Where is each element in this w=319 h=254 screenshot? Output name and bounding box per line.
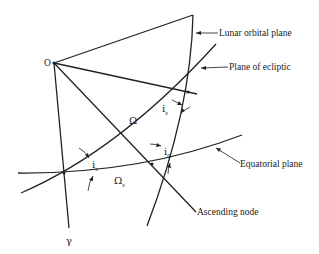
i-0-label: i0 (164, 146, 170, 159)
i-0-sub: 0 (167, 152, 170, 159)
ascending-node-label: Ascending node (197, 207, 258, 217)
arrow-ecliptic-icon (201, 66, 206, 70)
i-epsilon-label: iε (162, 103, 168, 116)
gamma-label: γ (66, 235, 72, 246)
line-o-to-gamma (54, 63, 69, 228)
ascending-node-dot (151, 163, 154, 166)
i-s-label: is (92, 159, 98, 172)
lunar-ecliptic-node-dot (187, 91, 190, 94)
i-s-sub: s (95, 165, 98, 172)
line-o-to-ecliptic-lunar-intersection (54, 63, 188, 92)
arrow-equatorial-icon (216, 148, 221, 152)
origin-label: O (44, 58, 51, 68)
lunar-orbital-plane-label: Lunar orbital plane (219, 28, 292, 38)
origin-dot (52, 61, 55, 64)
i-epsilon-sub: ε (165, 109, 168, 116)
arrow-i0-top-icon (156, 143, 161, 147)
omega-epsilon-sub: ε (122, 181, 125, 188)
equatorial-plane-arc (18, 135, 242, 173)
arrow-lunar-icon (196, 31, 201, 35)
orbital-planes-diagram: O γ Lunar orbital plane Plane of eclipti… (0, 0, 319, 254)
arrow-i-s-bottom-icon (89, 176, 93, 181)
equatorial-plane-label: Equatorial plane (240, 159, 303, 169)
line-o-to-lunar-top (54, 15, 193, 63)
plane-of-ecliptic-label: Plane of ecliptic (229, 62, 291, 72)
lunar-orbital-plane-arc (147, 15, 193, 226)
omega-epsilon-label: Ωε (114, 175, 125, 188)
omega-epsilon-base: Ω (114, 175, 122, 186)
omega-label: Ω (129, 115, 137, 126)
gamma-node-dot (63, 172, 66, 175)
